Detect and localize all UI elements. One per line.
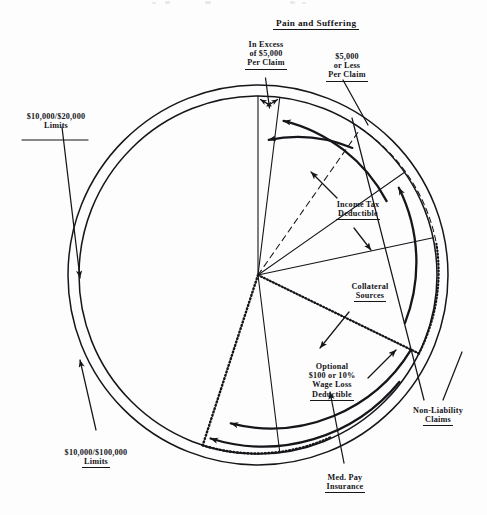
label-non-liability-line2: Claims	[423, 415, 453, 426]
label-non-liability: Non-Liability Claims	[396, 406, 480, 426]
label-med-pay: Med. Pay Insurance	[310, 473, 380, 493]
page-title: Pain and Suffering	[273, 18, 359, 30]
label-collateral: Collateral Sources	[335, 282, 405, 302]
label-limits-100k-line2: Limits	[82, 457, 110, 468]
label-collateral-line1: Collateral	[335, 282, 405, 291]
label-income-tax-line1: Income Tax	[322, 200, 394, 209]
label-income-tax: Income Tax Deductible	[322, 200, 394, 220]
leader-non-liability-2	[443, 352, 462, 400]
label-wage-loss: Optional $100 or 10% Wage Loss Deductibl…	[292, 362, 372, 401]
brace-arc-income-tax	[284, 121, 387, 201]
dashed-arc-upper-right	[361, 128, 437, 244]
leader-limits-20k	[62, 127, 80, 278]
label-wage-loss-line1: Optional	[292, 362, 372, 371]
label-collateral-line2: Sources	[354, 291, 387, 302]
label-limits-20k-line1: $10,000/$20,000	[10, 112, 102, 121]
label-med-pay-line2: Insurance	[325, 482, 366, 493]
label-non-liability-line1: Non-Liability	[396, 406, 480, 415]
label-5000-or-less-line1: $5,000	[308, 52, 386, 61]
dotted-arc-right	[419, 244, 439, 354]
page-title-text: Pain and Suffering	[273, 18, 359, 30]
label-in-excess-line3: Per Claim	[245, 58, 286, 69]
label-income-tax-line2: Deductible	[336, 209, 380, 220]
label-in-excess-line2: of $5,000	[224, 49, 308, 58]
label-limits-20k: $10,000/$20,000 Limits	[10, 112, 102, 130]
label-limits-100k-line1: $10,000/$100,000	[44, 448, 148, 457]
label-limits-100k: $10,000/$100,000 Limits	[44, 448, 148, 468]
sector-divider-non-liability-dotted	[203, 275, 258, 445]
diagram-canvas: Pain and Suffering In Excess of $5,000 P…	[0, 0, 487, 515]
label-wage-loss-line4: Deductible	[310, 390, 354, 401]
diagram-artwork	[0, 0, 487, 515]
label-limits-20k-line2: Limits	[10, 121, 102, 130]
label-5000-or-less-line3: Per Claim	[326, 70, 367, 81]
label-wage-loss-line2: $100 or 10%	[292, 371, 372, 380]
leader-income-tax-2	[354, 228, 371, 250]
label-wage-loss-line3: Wage Loss	[292, 380, 372, 389]
label-5000-or-less: $5,000 or Less Per Claim	[308, 52, 386, 82]
leader-collateral	[320, 312, 349, 348]
label-in-excess: In Excess of $5,000 Per Claim	[224, 40, 308, 70]
label-med-pay-line1: Med. Pay	[310, 473, 380, 482]
leader-5000-or-less	[343, 80, 368, 125]
label-in-excess-line1: In Excess	[224, 40, 308, 49]
brace-arc-collateral	[399, 188, 417, 324]
label-5000-or-less-line2: or Less	[308, 61, 386, 70]
sector-divider-med-pay	[258, 275, 280, 453]
